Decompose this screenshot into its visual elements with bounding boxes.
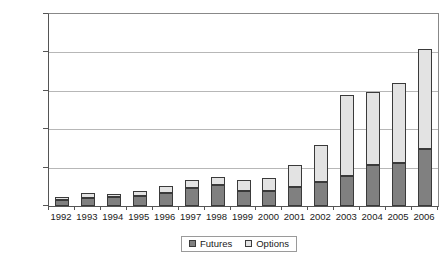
bar-segment-options: [55, 197, 69, 200]
x-axis-tick-mark: [100, 206, 101, 210]
x-axis-tick-label: 1993: [74, 212, 100, 222]
bar-segment-futures: [81, 198, 95, 206]
x-axis-tick-mark: [255, 206, 256, 210]
bar-segment-futures: [133, 196, 147, 206]
bar-stack: [288, 165, 302, 206]
x-axis-tick-label: 2005: [385, 212, 411, 222]
bar-segment-futures: [107, 197, 121, 206]
bar-stack: [55, 197, 69, 206]
bar-segment-options: [107, 194, 121, 197]
bar-stack: [314, 145, 328, 206]
chart-container: 0500010,00015,00020,00025,000 1992199319…: [0, 0, 448, 263]
bar-stack: [392, 83, 406, 206]
bar-stack: [211, 177, 225, 206]
plot-area: [48, 13, 439, 207]
bar-segment-futures: [366, 165, 380, 206]
x-axis-tick-mark: [152, 206, 153, 210]
bar-segment-options: [418, 49, 432, 149]
futures-swatch-icon: [189, 240, 196, 247]
x-axis-tick-label: 2004: [359, 212, 385, 222]
x-axis-tick-mark: [48, 206, 49, 210]
x-axis-tick-label: 2000: [255, 212, 281, 222]
bar-segment-futures: [159, 193, 173, 206]
bar-segment-futures: [237, 191, 251, 206]
x-axis-tick-label: 1995: [126, 212, 152, 222]
bar-segment-futures: [262, 191, 276, 206]
x-axis-tick-label: 1997: [178, 212, 204, 222]
bar-segment-futures: [392, 163, 406, 206]
bar-stack: [262, 178, 276, 206]
bar-segment-options: [366, 92, 380, 165]
x-axis-tick-mark: [178, 206, 179, 210]
bar-segment-options: [81, 193, 95, 198]
bar-segment-options: [159, 186, 173, 193]
bar-segment-futures: [418, 149, 432, 206]
x-axis-tick-mark: [385, 206, 386, 210]
bar-segment-futures: [314, 182, 328, 206]
x-axis-tick-label: 1994: [100, 212, 126, 222]
legend-entry: Options: [245, 239, 289, 249]
x-axis-tick-label: 2006: [411, 212, 437, 222]
bar-stack: [107, 194, 121, 206]
x-axis-tick-mark: [281, 206, 282, 210]
legend-entry: Futures: [189, 239, 232, 249]
bar-segment-futures: [211, 185, 225, 206]
bar-segment-futures: [55, 200, 69, 206]
bar-stack: [133, 191, 147, 206]
bar-stack: [81, 193, 95, 206]
legend-label: Options: [256, 239, 289, 249]
x-axis-tick-mark: [333, 206, 334, 210]
bar-segment-options: [340, 95, 354, 176]
x-axis-tick-mark: [307, 206, 308, 210]
bar-stack: [237, 180, 251, 206]
bar-segment-options: [392, 83, 406, 163]
bar-segment-options: [314, 145, 328, 183]
bar-stack: [185, 180, 199, 206]
x-axis-tick-mark: [74, 206, 75, 210]
bar-segment-options: [288, 165, 302, 187]
options-swatch-icon: [245, 240, 252, 247]
gridline: [49, 52, 438, 53]
x-axis-tick-label: 1999: [230, 212, 256, 222]
bar-segment-options: [262, 178, 276, 191]
bar-segment-options: [133, 191, 147, 196]
bar-segment-options: [185, 180, 199, 187]
bar-stack: [159, 186, 173, 206]
x-axis-tick-label: 2001: [281, 212, 307, 222]
bar-segment-futures: [340, 176, 354, 206]
legend-label: Futures: [200, 239, 232, 249]
x-axis-tick-mark: [126, 206, 127, 210]
x-axis-tick-label: 1996: [152, 212, 178, 222]
x-axis-tick-mark: [204, 206, 205, 210]
bar-stack: [366, 92, 380, 206]
x-axis-tick-mark: [411, 206, 412, 210]
x-axis-tick-label: 2002: [307, 212, 333, 222]
bar-segment-futures: [185, 188, 199, 206]
bar-segment-futures: [288, 187, 302, 206]
chart-legend: FuturesOptions: [181, 236, 297, 252]
x-axis-tick-label: 1992: [48, 212, 74, 222]
x-axis-tick-mark: [359, 206, 360, 210]
x-axis-tick-mark: [230, 206, 231, 210]
bar-segment-options: [237, 180, 251, 191]
x-axis-tick-label: 1998: [204, 212, 230, 222]
bar-stack: [418, 49, 432, 206]
bar-stack: [340, 95, 354, 206]
x-axis-tick-label: 2003: [333, 212, 359, 222]
x-axis-tick-mark: [437, 206, 438, 210]
bar-segment-options: [211, 177, 225, 185]
